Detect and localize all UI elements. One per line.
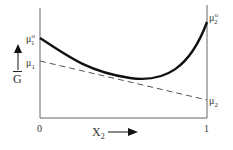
- x-axis-label: X2: [92, 126, 105, 141]
- mu1-label: μ1: [26, 58, 35, 71]
- diagram-canvas: [0, 0, 233, 150]
- g-overbar-label: G: [13, 71, 22, 85]
- mu2-standard-label: μo2: [209, 12, 217, 26]
- mu1-standard-label: μo1: [26, 33, 34, 47]
- tangent-line: [40, 61, 207, 100]
- x-tick-0: 0: [37, 124, 42, 134]
- g-mix-curve: [40, 22, 207, 79]
- right-arrow-icon: [128, 128, 138, 136]
- mu2-label: μ2: [209, 96, 218, 109]
- up-arrow-icon: [14, 44, 22, 53]
- x-tick-1: 1: [204, 124, 209, 134]
